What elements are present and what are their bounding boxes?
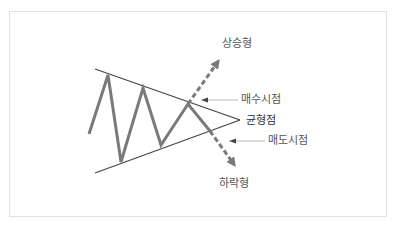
upper-trend-line [95,69,240,120]
buy-point-pointer-icon [201,98,208,103]
breakout-down-arrow [210,131,233,163]
breakout-down-label: 하락형 [219,178,249,190]
triangle-pattern-diagram [0,0,396,230]
breakout-up-arrow [188,63,217,104]
buy-point-label: 매수시점 [241,94,281,106]
sell-point-label: 매도시점 [268,135,308,147]
equilibrium-label: 균형점 [246,115,276,127]
breakout-up-label: 상승형 [222,38,252,50]
sell-point-pointer-icon [229,139,236,144]
